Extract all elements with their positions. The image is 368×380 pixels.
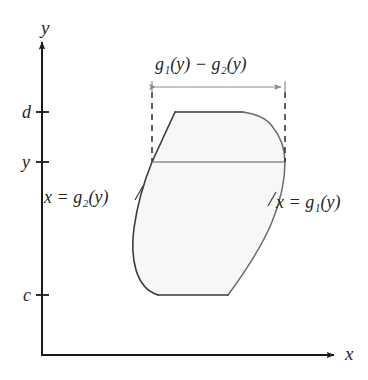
y-tick-label-d: d (22, 103, 31, 121)
x-axis-label: x (345, 344, 353, 363)
width-measure-label: g₁(y) − g₂(y) (155, 55, 247, 73)
left-boundary-label: x = g₂(y) (44, 188, 108, 206)
figure-container: y x d y c g₁(y) − g₂(y) x = g₂(y) x = g₁… (0, 0, 368, 380)
right-boundary-label: x = g₁(y) (276, 193, 340, 211)
y-axis-label: y (41, 18, 49, 37)
region-fill (133, 112, 285, 295)
y-tick-label-y: y (22, 153, 30, 171)
y-tick-label-c: c (23, 286, 31, 304)
